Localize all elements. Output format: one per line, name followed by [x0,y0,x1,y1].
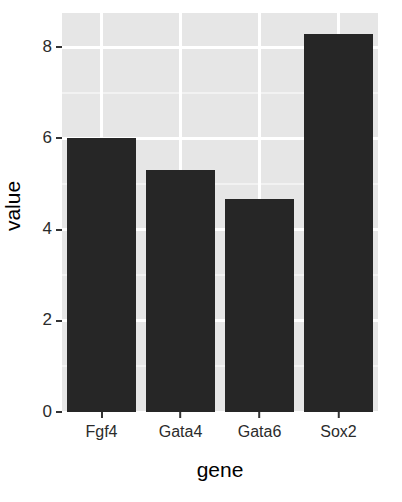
x-tick-label: Sox2 [320,423,356,441]
x-tick-label: Fgf4 [85,423,117,441]
x-tick-label: Gata4 [159,423,203,441]
plot-panel [62,13,378,412]
y-tick-label: 4 [43,220,52,237]
x-tick-mark [180,412,182,418]
x-tick-gata6: Gata6 [238,412,282,441]
x-tick-gata4: Gata4 [159,412,203,441]
y-tick-label: 8 [43,38,52,55]
y-tick-label: 6 [43,129,52,146]
bar-fgf4[interactable] [67,138,137,412]
x-tick-fgf4: Fgf4 [85,412,117,441]
x-tick-mark [338,412,340,418]
x-tick-mark [259,412,261,418]
x-axis-title-label: gene [197,458,244,481]
x-axis-title: gene [62,458,378,482]
bar-sox2[interactable] [304,34,374,412]
bar-gata6[interactable] [225,199,295,412]
y-axis-title-label: value [1,181,25,231]
bar-gata4[interactable] [146,170,216,412]
y-tick-label: 0 [43,403,52,420]
x-tick-sox2: Sox2 [320,412,356,441]
y-axis-title: value [0,0,26,412]
x-tick-label: Gata6 [238,423,282,441]
x-tick-mark [100,412,102,418]
y-tick-label: 2 [43,311,52,328]
bar-chart: value 02468 Fgf4Gata4Gata6Sox2 gene [0,0,402,502]
x-axis-ticks: Fgf4Gata4Gata6Sox2 [62,412,378,456]
y-axis-ticks: 02468 [26,13,62,412]
